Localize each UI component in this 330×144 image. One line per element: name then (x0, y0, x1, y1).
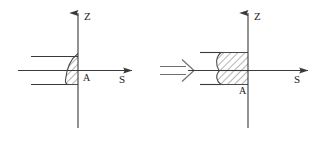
origin-label-a-right: A (239, 85, 247, 96)
axis-label-z-right: Z (254, 10, 261, 22)
axis-label-s-right: S (294, 73, 300, 85)
hatched-region-block-fill (217, 53, 248, 85)
panel-after: Z S A (188, 10, 308, 128)
panel-before: Z S A (18, 10, 132, 128)
axis-label-s-left: S (119, 73, 125, 85)
origin-label-a-left: A (83, 72, 91, 83)
transformation-diagram: Z S A Z S A (0, 0, 330, 144)
figure-canvas: Z S A Z S A (0, 0, 330, 144)
axis-label-z-left: Z (84, 10, 91, 22)
